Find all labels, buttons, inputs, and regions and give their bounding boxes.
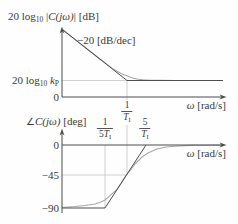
phase-omega-symbol: ω	[187, 147, 195, 159]
low-corner-numerator: 1	[97, 117, 113, 128]
gain-level-tick-label: 20 log10 kP	[12, 74, 59, 90]
corner-frequency-tick-label: 1 TI	[121, 100, 132, 125]
phase-high-corner-tick-label: 5 TI	[139, 117, 150, 142]
gain-label-pre: 20 log	[12, 74, 40, 86]
magnitude-zero-tick-label: 0	[54, 91, 60, 103]
phase-omega-unit: [rad/s]	[195, 147, 226, 159]
magnitude-axis-label-pre: 20 log	[8, 10, 36, 22]
high-corner-denominator: TI	[139, 128, 150, 142]
phase-axis-label-var: C(jω)	[35, 115, 61, 127]
phase-axis-label-unit: [deg]	[60, 115, 86, 127]
phase-zero-tick-label: 0	[54, 139, 60, 151]
magnitude-omega-symbol: ω	[187, 99, 195, 111]
high-corner-numerator: 5	[139, 117, 150, 128]
angle-symbol-icon: ∠	[26, 116, 35, 127]
magnitude-frequency-axis-label: ω [rad/s]	[187, 99, 226, 111]
magnitude-axis-label-unit: | [dB]	[74, 10, 99, 22]
phase-frequency-axis-label: ω [rad/s]	[187, 147, 226, 159]
phase-asymptote	[62, 145, 146, 208]
magnitude-axis-label: 20 log10 |C(jω)| [dB]	[8, 10, 99, 26]
magnitude-omega-unit: [rad/s]	[195, 99, 226, 111]
corner-tick-den-sub: I	[129, 116, 131, 123]
high-corner-den-sub: I	[147, 133, 149, 140]
low-corner-denominator: 5TI	[97, 128, 113, 142]
low-corner-den-sub: I	[109, 133, 111, 140]
slope-annotation: −20 [dB/dec]	[77, 34, 135, 46]
corner-tick-numerator: 1	[121, 100, 132, 111]
bode-plot-figure: 20 log10 |C(jω)| [dB] −20 [dB/dec] 20 lo…	[0, 0, 238, 224]
phase-low-corner-tick-label: 1 5TI	[97, 117, 113, 142]
gain-label-var-sub: P	[55, 79, 59, 88]
phase-minus90-tick-label: −90	[42, 202, 59, 214]
gain-label-var: k	[47, 74, 55, 86]
phase-minus45-tick-label: −45	[42, 169, 59, 181]
magnitude-axis-label-var: C(jω)	[48, 10, 74, 22]
phase-axis-label: ∠C(jω) [deg]	[26, 115, 86, 128]
corner-tick-denominator: TI	[121, 111, 132, 125]
